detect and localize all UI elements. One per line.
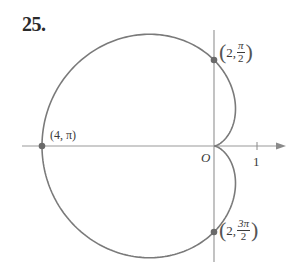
point-2-3pi-over-2 <box>211 229 218 236</box>
x-tick-label-1: 1 <box>253 155 260 168</box>
point-2-pi-over-2 <box>211 57 218 64</box>
x-axis-arrow-icon <box>276 143 286 150</box>
label-point-4-pi: (4, π) <box>50 129 76 141</box>
label-point-2-3pi-over-2: (2,3π2) <box>219 218 258 242</box>
point-4-pi <box>39 143 46 150</box>
origin-label: O <box>201 151 210 164</box>
polar-graph-figure: 25. O 1 (2,π2) (4, π) (2,3π2) <box>0 0 292 264</box>
label-point-2-pi-over-2: (2,π2) <box>219 40 253 64</box>
